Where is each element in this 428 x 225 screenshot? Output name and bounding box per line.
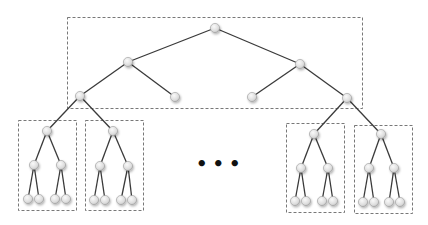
subtree-boxes: [19, 18, 413, 214]
leaf-node: [369, 197, 378, 206]
leaf-node: [34, 194, 43, 203]
leaf-node: [61, 194, 70, 203]
tree-edge: [369, 134, 381, 168]
leaf-node: [116, 195, 125, 204]
tree-graphic: [0, 0, 428, 225]
tree-edge: [34, 131, 47, 165]
subtree-internal-node: [323, 163, 332, 172]
tree-edge: [113, 131, 128, 166]
subtree-internal-node: [95, 161, 104, 170]
leaf-node: [358, 197, 367, 206]
leaf-node: [328, 196, 337, 205]
tree-edge: [128, 28, 215, 62]
leaf-node: [100, 195, 109, 204]
tree-edge: [121, 166, 128, 200]
subtree-internal-node: [389, 163, 398, 172]
leaf-node: [89, 195, 98, 204]
tree-edge: [252, 64, 300, 97]
tree-node-l1b: [295, 59, 304, 68]
tree-edge: [80, 62, 128, 96]
tree-edge: [389, 168, 394, 202]
tree-nodes: [23, 23, 404, 206]
subtree-root-node: [376, 129, 385, 138]
tree-edge: [328, 168, 333, 201]
tree-edge: [314, 134, 328, 168]
subtree-internal-node: [29, 160, 38, 169]
tree-node-l2a: [75, 91, 84, 100]
tree-node-l2c: [247, 92, 256, 101]
tree-edge: [128, 62, 175, 97]
leaf-node: [301, 196, 310, 205]
tree-edge: [100, 131, 113, 166]
tree-edge: [347, 98, 381, 134]
tree-edge: [128, 166, 132, 200]
tree-edge: [94, 166, 100, 200]
tree-edge: [363, 168, 369, 202]
leaf-node: [50, 194, 59, 203]
leaf-node: [384, 197, 393, 206]
tree-diagram: •••: [0, 0, 428, 225]
ellipsis-indicator: •••: [196, 153, 246, 174]
tree-edge: [215, 28, 300, 64]
tree-edge: [394, 168, 400, 202]
subtree-internal-node: [56, 160, 65, 169]
leaf-node: [395, 197, 404, 206]
tree-edge: [314, 98, 347, 134]
leaf-node: [290, 196, 299, 205]
tree-edge: [322, 168, 328, 201]
tree-edge: [47, 96, 80, 131]
tree-edge: [80, 96, 113, 131]
subtree-internal-node: [364, 163, 373, 172]
tree-edge: [55, 165, 61, 199]
tree-node-root: [210, 23, 219, 32]
tree-edge: [47, 131, 61, 165]
tree-edge: [100, 166, 105, 200]
subtree-root-node: [309, 129, 318, 138]
tree-edge: [295, 168, 301, 201]
tree-edge: [28, 165, 34, 199]
tree-edge: [61, 165, 66, 199]
leaf-node: [23, 194, 32, 203]
leaf-node: [127, 195, 136, 204]
tree-node-l1a: [123, 57, 132, 66]
tree-node-l2d: [342, 93, 351, 102]
subtree-internal-node: [123, 161, 132, 170]
tree-edge: [369, 168, 374, 202]
tree-edge: [301, 134, 314, 168]
subtree-root-node: [108, 126, 117, 135]
subtree-internal-node: [296, 163, 305, 172]
subtree-root-node: [42, 126, 51, 135]
leaf-node: [317, 196, 326, 205]
tree-edge: [381, 134, 394, 168]
tree-edge: [34, 165, 39, 199]
tree-edge: [301, 168, 306, 201]
tree-node-l2b: [170, 92, 179, 101]
tree-edge: [300, 64, 347, 98]
